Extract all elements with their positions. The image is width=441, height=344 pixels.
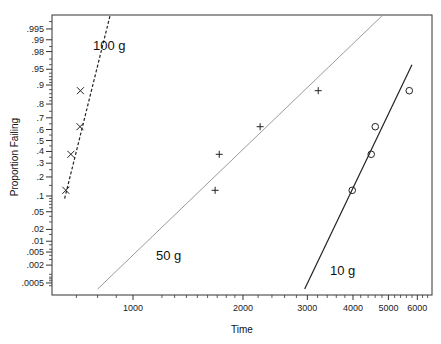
x-tick-label: 4000 [343,303,363,313]
series-label-10g: 10 g [330,263,355,278]
y-tick-label: .002 [26,260,44,270]
probability-plot: 100020003000400050006000 .995.99.98.95.9… [0,0,441,344]
fit-line-50g [98,16,382,289]
series-label-100g: 100 g [93,38,126,53]
y-tick-label: .2 [36,172,44,182]
data-point-10g [372,123,379,130]
y-tick-label: .0005 [21,278,44,288]
data-point-50g [315,87,322,94]
fit-line-10g [305,65,412,289]
y-tick-label: .1 [36,191,44,201]
data-point-10g [406,87,413,94]
x-axis-title: Time [231,324,253,335]
fit-lines [65,16,412,289]
y-tick-label: .5 [36,136,44,146]
data-point-50g [257,123,264,130]
series-labels: 100 g50 g10 g [93,38,355,278]
x-axis-ticks: 100020003000400050006000 [76,295,427,313]
series-label-50g: 50 g [156,248,181,263]
y-tick-label: .95 [31,64,44,74]
data-point-50g [216,151,223,158]
y-tick-label: .99 [31,35,44,45]
data-point-100g [76,123,83,130]
x-tick-label: 1000 [123,303,143,313]
y-tick-label: .05 [31,207,44,217]
y-tick-label: .98 [31,47,44,57]
x-tick-label: 3000 [297,303,317,313]
x-tick-label: 2000 [233,303,253,313]
y-tick-label: .9 [36,80,44,90]
y-tick-label: .3 [36,158,44,168]
plot-frame [52,15,432,295]
y-tick-label: .995 [26,24,44,34]
y-tick-label: .02 [31,224,44,234]
y-axis-ticks: .995.99.98.95.9.8.7.6.5.4.3.2.1.05.02.01… [21,22,52,288]
y-axis-title: Proportion Failing [9,118,20,196]
y-tick-label: .4 [36,146,44,156]
y-tick-label: .6 [36,125,44,135]
data-point-100g [67,151,74,158]
data-points [62,87,412,194]
x-tick-label: 5000 [378,303,398,313]
y-tick-label: .7 [36,113,44,123]
y-tick-label: .01 [31,236,44,246]
x-tick-label: 6000 [407,303,427,313]
y-tick-label: .005 [26,247,44,257]
data-point-100g [77,87,84,94]
data-point-50g [212,187,219,194]
y-tick-label: .8 [36,99,44,109]
